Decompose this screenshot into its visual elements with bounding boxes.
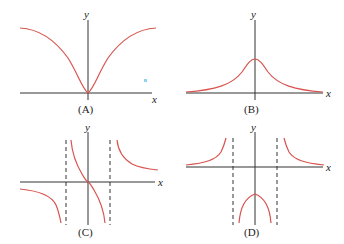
x-axis-label: x <box>157 176 163 188</box>
panel-a: x y (A) <box>20 8 157 116</box>
marker <box>144 79 147 82</box>
curve-d-left <box>186 138 226 165</box>
y-axis-label: y <box>83 8 89 20</box>
curve-c-right <box>117 140 158 170</box>
x-axis-label: x <box>325 161 331 173</box>
y-axis-label: y <box>250 8 256 20</box>
curve-d-right <box>284 138 324 165</box>
x-axis-label: x <box>325 87 331 99</box>
panel-label-b: (B) <box>244 103 259 116</box>
y-axis-label: y <box>250 121 256 133</box>
curve-c-left <box>20 189 61 223</box>
panel-label-c: (C) <box>78 226 93 239</box>
x-axis-label: x <box>151 93 157 105</box>
panel-c: x y (C) <box>20 121 163 239</box>
y-axis-label: y <box>84 121 90 133</box>
panel-d: x y (D) <box>186 121 331 239</box>
panel-b: x y (B) <box>186 8 331 116</box>
panel-label-d: (D) <box>244 226 260 239</box>
panel-label-a: (A) <box>78 103 94 116</box>
function-graphs-figure: x y (A) x y (B) x y (C) x y (D) <box>0 0 344 244</box>
